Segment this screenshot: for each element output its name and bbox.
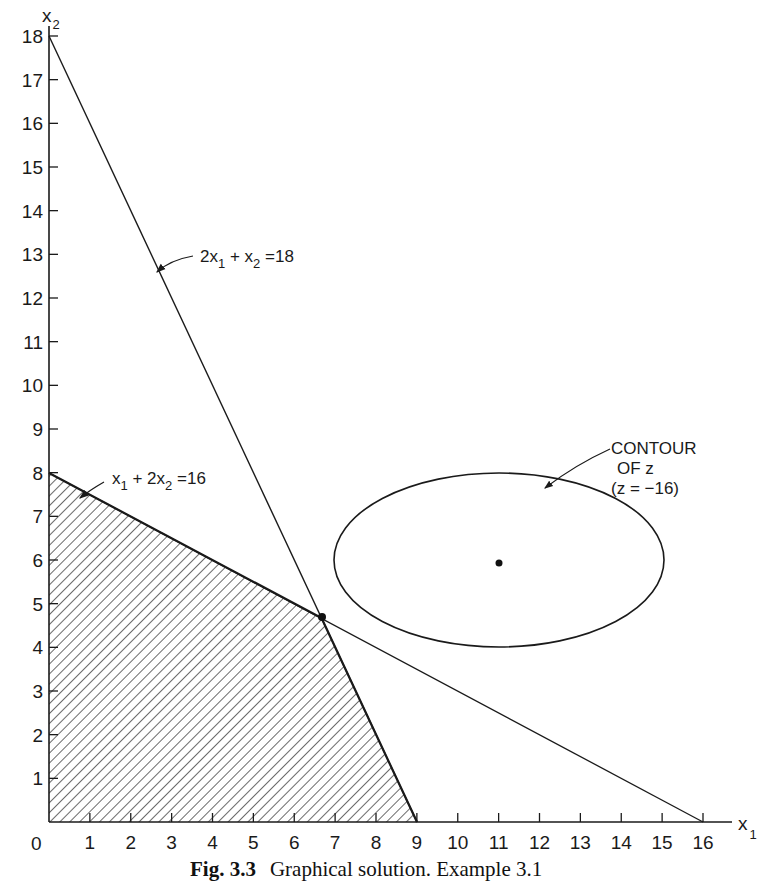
x-tick-label: 15 — [652, 832, 673, 853]
x-tick-label: 3 — [166, 832, 177, 853]
x-tick-label: 5 — [248, 832, 259, 853]
y-tick-label: 18 — [22, 26, 43, 47]
y-tick-label: 16 — [22, 113, 43, 134]
y-tick-label: 13 — [22, 244, 43, 265]
y-tick-label: 1 — [32, 768, 43, 789]
y-tick-label: 5 — [32, 594, 43, 615]
y-tick-label: 4 — [32, 637, 43, 658]
x-tick-label: 10 — [447, 832, 468, 853]
x-tick-label: 13 — [570, 832, 591, 853]
x-tick-label: 4 — [207, 832, 218, 853]
x-tick-label: 11 — [489, 832, 509, 853]
x-axis-label: x1 — [738, 813, 757, 842]
y-tick-label: 2 — [32, 725, 43, 746]
y-tick-label: 7 — [32, 506, 43, 527]
x-tick-label: 8 — [371, 832, 382, 853]
origin-label: 0 — [31, 833, 42, 854]
x-tick-label: 16 — [692, 832, 713, 853]
y-tick-label: 12 — [22, 288, 43, 309]
x-tick-label: 14 — [611, 832, 633, 853]
annotation-contour-line3: (z = −16) — [611, 479, 679, 498]
y-axis-label: x2 — [42, 5, 60, 32]
y-tick-label: 3 — [32, 681, 43, 702]
annotation-arrow-line1 — [157, 256, 193, 272]
ellipse-center-point — [496, 560, 503, 567]
annotation-line1-label: 2x1 + x2 =18 — [200, 247, 294, 271]
figure-caption: Fig. 3.3Graphical solution. Example 3.1 — [190, 857, 542, 882]
feasible-region — [49, 473, 417, 822]
y-tick-label: 14 — [22, 201, 44, 222]
x-tick-label: 2 — [125, 832, 136, 853]
y-tick-label: 11 — [23, 332, 43, 353]
annotation-arrow-contour — [545, 449, 610, 488]
annotation-contour-line2: OF z — [617, 459, 654, 478]
y-tick-label: 6 — [32, 550, 43, 571]
y-tick-label: 17 — [22, 70, 43, 91]
x-tick-label: 1 — [85, 832, 96, 853]
caption-label: Fig. 3.3 — [190, 857, 256, 881]
y-tick-label: 15 — [22, 157, 43, 178]
optimal-point — [318, 613, 326, 621]
x-tick-label: 9 — [412, 832, 423, 853]
y-tick-label: 10 — [22, 375, 43, 396]
x-tick-label: 6 — [289, 832, 300, 853]
annotation-line2-label: x1 + 2x2 =16 — [112, 469, 206, 493]
y-tick-label: 8 — [32, 463, 43, 484]
annotation-contour-line1: CONTOUR — [611, 439, 697, 458]
caption-text: Graphical solution. Example 3.1 — [270, 857, 542, 881]
y-tick-label: 9 — [32, 419, 43, 440]
x-tick-label: 7 — [330, 832, 341, 853]
x-tick-label: 12 — [529, 832, 550, 853]
